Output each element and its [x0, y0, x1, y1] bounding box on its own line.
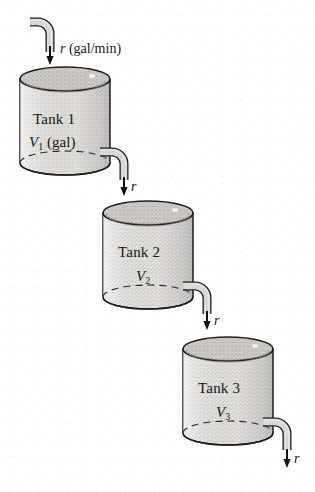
tank-2-volume-label: V2: [136, 269, 150, 286]
tank-2-label: Tank 2: [118, 245, 160, 260]
tank-3-group: [183, 337, 291, 468]
tank-3-volume-label: V3: [216, 405, 230, 422]
inlet-pipe-icon: [30, 20, 52, 52]
tank-2-group: [103, 201, 211, 330]
tank-1-volume-label: V1 (gal): [29, 135, 75, 152]
outflow-arrow-icon: [283, 449, 290, 468]
tank-3-label: Tank 3: [198, 381, 240, 396]
flow-1-to-2-label: r: [131, 180, 136, 194]
inflow-rate-label: r (gal/min): [60, 42, 121, 56]
figure-canvas: r (gal/min) Tank 1 V1 (gal) r Tank 2 V2 …: [0, 0, 315, 492]
tank-1-label: Tank 1: [33, 112, 75, 127]
flow-2-to-3-label: r: [214, 314, 219, 328]
outflow-rate-label: r: [294, 452, 299, 466]
